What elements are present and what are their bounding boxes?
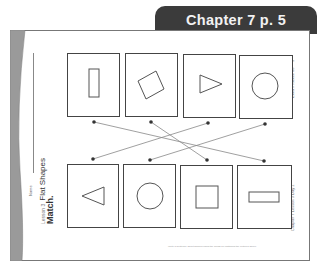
matching-lines: [0, 0, 319, 267]
